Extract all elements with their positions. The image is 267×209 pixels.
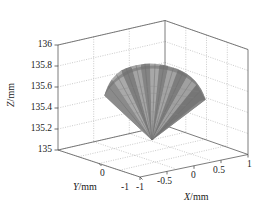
y-tick-label: 0 [100, 169, 105, 179]
x-axis-title: X/mm [184, 192, 208, 202]
z-tick-label: 135.8 [8, 61, 52, 71]
z-tick-label: 136 [14, 40, 52, 50]
x-tick-label: -1 [136, 183, 144, 193]
x-tick-label: 0 [191, 171, 196, 181]
z-axis-title-symbol: Z [5, 101, 16, 107]
y-axis-title: Y/mm [73, 182, 97, 192]
surface-ridges [105, 64, 206, 140]
x-axis-title-unit: /mm [190, 191, 208, 202]
z-tick-label: 135.2 [8, 124, 52, 134]
z-axis-title: Z/mm [6, 78, 16, 112]
y-tick-label: -1 [121, 183, 129, 193]
x-tick-label: 1 [247, 160, 252, 170]
surface-plot-figure: 136 135.8 135.6 135.4 135.2 135 0 -1 -1 … [0, 0, 267, 209]
y-axis-title-unit: /mm [79, 181, 97, 192]
x-tick-label: -0.5 [157, 177, 172, 187]
x-tick-label: 0.5 [213, 166, 225, 176]
z-tick-label: 135 [14, 145, 52, 155]
surface-3d [105, 64, 206, 140]
z-axis-title-unit: /mm [5, 83, 16, 101]
